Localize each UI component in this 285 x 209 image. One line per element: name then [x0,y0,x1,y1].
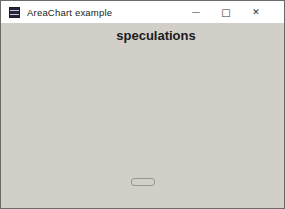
title-bar[interactable]: AreaChart example — □ ✕ [1,1,284,23]
chart-title: speculations [116,28,195,43]
app-window: AreaChart example — □ ✕ speculations [0,0,285,209]
minimize-button[interactable]: — [181,1,211,23]
chart-panel: speculations [1,23,284,208]
window-controls: — □ ✕ [181,1,271,23]
chart-legend [131,178,155,186]
window-title: AreaChart example [27,7,112,18]
close-button[interactable]: ✕ [241,1,271,23]
app-icon [9,7,20,18]
maximize-button[interactable]: □ [211,1,241,23]
